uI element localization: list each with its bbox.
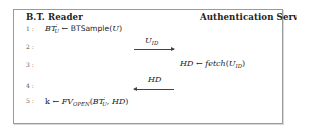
step-4-message: HD [148, 75, 161, 84]
assign-arrow: ← [52, 97, 59, 106]
assign-arrow: ← [196, 59, 203, 68]
step-3-arg: U [229, 59, 236, 68]
step-5-func-sub: OPEN [73, 101, 90, 107]
assign-arrow: ← [62, 24, 69, 33]
step-5-lhs: k [45, 97, 50, 106]
line-number-2: 2 : [26, 43, 34, 50]
party-server-label: Authentication Server [200, 12, 297, 22]
step-1-arg: U [112, 24, 119, 33]
step-3-func: fetch [205, 59, 226, 68]
step-5-func: FV [62, 97, 73, 106]
step-3-fetch: HD ← fetch(UID) [180, 59, 245, 69]
paren-close: ) [125, 97, 128, 106]
arrow-left-icon [134, 89, 174, 90]
step-1-sample: BT′U ← BTSample(U) [45, 23, 122, 34]
line-number-1: 1 : [26, 25, 34, 32]
step-2-message-sub: ID [152, 40, 158, 46]
line-number-4: 4 : [26, 82, 34, 89]
step-2-message: UID [145, 36, 158, 46]
line-number-5: 5 : [26, 97, 34, 104]
paren-close: ) [242, 59, 245, 68]
step-5-arg2: HD [112, 97, 125, 106]
party-reader-label: B.T. Reader [26, 12, 83, 22]
line-number-3: 3 : [26, 61, 34, 68]
step-1-lhs-sub: U [54, 28, 59, 34]
step-1-func: BTSample [71, 24, 109, 33]
step-3-lhs: HD [180, 59, 193, 68]
step-5-open: k ← FVOPEN(BT′U, HD) [45, 96, 128, 107]
arrow-right-icon [134, 49, 174, 50]
paren-close: ) [119, 24, 122, 33]
step-2-message-main: U [145, 36, 152, 45]
